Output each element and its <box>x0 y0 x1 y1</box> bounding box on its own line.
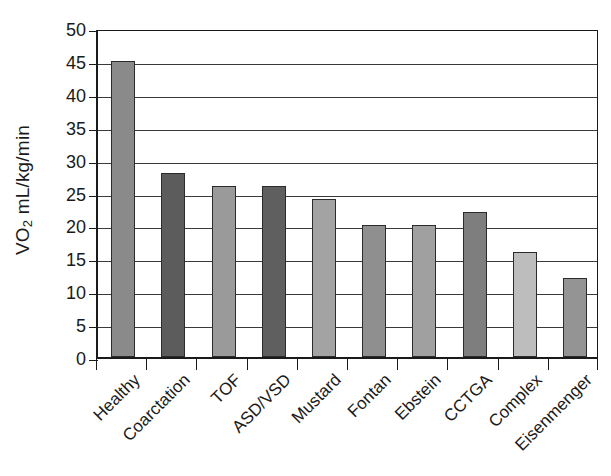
x-axis-tick-mark <box>397 359 398 370</box>
bar <box>463 212 487 357</box>
y-axis-tick-label: 35 <box>46 120 86 138</box>
y-axis-tick-mark <box>89 97 98 98</box>
y-axis-tick-labels: 05101520253035404550 <box>40 0 86 476</box>
gridline <box>98 64 597 65</box>
y-axis-title-subscript: 2 <box>19 220 34 227</box>
y-axis-tick-label: 5 <box>46 317 86 335</box>
y-axis-tick-label: 20 <box>46 218 86 236</box>
bar <box>262 186 286 357</box>
y-axis-tick-label: 15 <box>46 251 86 269</box>
y-axis-tick-mark <box>89 163 98 164</box>
x-axis-tick-marks <box>96 359 598 371</box>
x-axis-tick-mark <box>498 359 499 370</box>
x-axis-tick-mark <box>297 359 298 370</box>
x-axis-tick-mark <box>597 359 598 370</box>
y-axis-tick-label: 30 <box>46 153 86 171</box>
y-axis-tick-label: 40 <box>46 87 86 105</box>
bar <box>513 252 537 357</box>
bar <box>161 173 185 357</box>
gridline <box>98 130 597 131</box>
y-axis-title: VO2 mL/kg/min <box>8 25 38 355</box>
x-axis-tick-mark <box>247 359 248 370</box>
bar <box>563 278 587 357</box>
y-axis-tick-label: 45 <box>46 54 86 72</box>
y-axis-tick-mark <box>89 196 98 197</box>
bar <box>362 225 386 357</box>
y-axis-tick-mark <box>89 261 98 262</box>
x-axis-tick-mark <box>146 359 147 370</box>
x-axis-tick-mark <box>447 359 448 370</box>
y-axis-tick-label: 10 <box>46 284 86 302</box>
y-axis-title-text: VO2 mL/kg/min <box>12 125 35 255</box>
y-axis-tick-mark <box>89 228 98 229</box>
y-axis-tick-label: 25 <box>46 186 86 204</box>
gridline <box>98 97 597 98</box>
y-axis-tick-label: 0 <box>46 350 86 368</box>
gridline <box>98 163 597 164</box>
plot-area <box>96 30 598 359</box>
y-axis-tick-mark <box>89 130 98 131</box>
x-axis-tick-mark <box>548 359 549 370</box>
x-axis-tick-mark <box>196 359 197 370</box>
x-axis-tick-mark <box>347 359 348 370</box>
bar <box>412 225 436 357</box>
x-axis-tick-mark <box>96 359 97 370</box>
y-axis-tick-mark <box>89 31 98 32</box>
bar <box>212 186 236 357</box>
y-axis-tick-mark <box>89 64 98 65</box>
y-axis-tick-mark <box>89 327 98 328</box>
bar <box>111 61 135 357</box>
y-axis-tick-mark <box>89 294 98 295</box>
bar-chart-figure: VO2 mL/kg/min 05101520253035404550 Healt… <box>0 0 611 476</box>
y-axis-tick-label: 50 <box>46 21 86 39</box>
x-axis-tick-labels: HealthyCoarctationTOFASD/VSDMustardFonta… <box>96 371 611 476</box>
bar <box>312 199 336 357</box>
